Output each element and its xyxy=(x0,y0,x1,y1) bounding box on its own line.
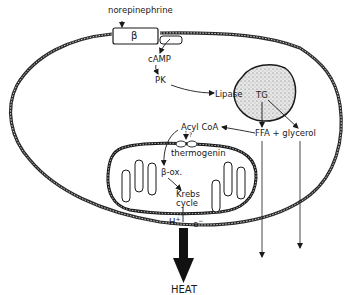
question-mark-label: ? xyxy=(189,132,192,138)
h-plus-sup: + xyxy=(175,215,180,222)
ffa-glycerol-label: FFA + glycerol xyxy=(255,129,316,138)
pk-to-lipase-arrow xyxy=(171,85,214,93)
lipase-label: Lipase xyxy=(215,90,242,99)
acyl-coa-label: Acyl CoA xyxy=(181,123,218,132)
krebs-label-line2: cycle xyxy=(176,199,198,208)
pk-label: PK xyxy=(155,76,166,85)
ffa-to-acylcoa-arrow xyxy=(222,127,255,133)
camp-to-pk-arrow xyxy=(156,65,158,74)
camp-label: cAMP xyxy=(148,55,171,64)
h-plus-label: H+ xyxy=(169,216,180,226)
tg-label: TG xyxy=(256,91,268,100)
adenylate-cyclase xyxy=(160,36,182,44)
heat-label: HEAT xyxy=(171,285,197,295)
e-minus-sup: − xyxy=(198,217,203,224)
norepinephrine-label: norepinephrine xyxy=(108,6,173,15)
beta-receptor-label: β xyxy=(131,31,137,41)
thermogenin-label: thermogenin xyxy=(171,149,226,158)
beta-ox-label: β-ox. xyxy=(161,168,182,177)
e-minus-label: e− xyxy=(193,218,203,228)
heat-arrow xyxy=(173,228,194,283)
